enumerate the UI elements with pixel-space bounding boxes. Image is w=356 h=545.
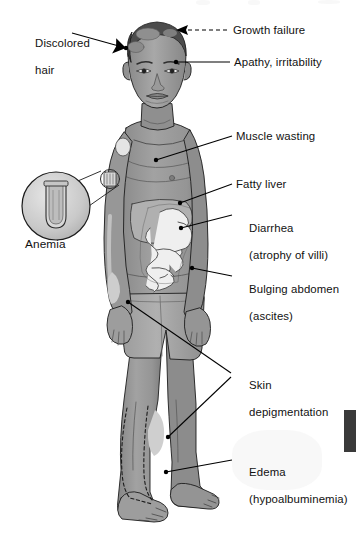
- label-growth-failure: Growth failure: [233, 24, 305, 37]
- label-text-line2: (ascites): [249, 310, 293, 322]
- label-text: Diarrhea: [249, 222, 293, 234]
- label-text: Edema: [249, 466, 286, 478]
- label-muscle-wasting: Muscle wasting: [236, 130, 315, 143]
- label-text: Discolored: [35, 37, 90, 49]
- label-bulging-abdomen: Bulging abdomen (ascites): [236, 270, 339, 336]
- label-anemia: Anemia: [25, 238, 66, 251]
- label-edema: Edema (hypoalbuminemia): [236, 453, 348, 519]
- label-skin-depigmentation: Skin depigmentation: [236, 366, 328, 432]
- label-discolored-hair: Discolored hair: [22, 24, 90, 90]
- page-edge-tab: [344, 410, 356, 452]
- label-apathy-irritability: Apathy, irritability: [234, 56, 322, 69]
- label-text: Apathy, irritability: [234, 56, 322, 68]
- label-text: Growth failure: [233, 24, 305, 36]
- label-text-line2: hair: [35, 64, 54, 76]
- label-text-line2: (hypoalbuminemia): [249, 493, 348, 505]
- figure-canvas: Discolored hair Growth failure Apathy, i…: [0, 0, 356, 545]
- label-text: Anemia: [25, 237, 66, 251]
- label-diarrhea: Diarrhea (atrophy of villi): [236, 209, 328, 275]
- label-fatty-liver: Fatty liver: [236, 178, 286, 191]
- label-text: Skin: [249, 379, 272, 391]
- label-text: Fatty liver: [236, 178, 286, 190]
- label-text-line2: depigmentation: [249, 406, 328, 418]
- label-text-line2: (atrophy of villi): [249, 249, 328, 261]
- label-text: Bulging abdomen: [249, 283, 339, 295]
- label-text: Muscle wasting: [236, 130, 315, 142]
